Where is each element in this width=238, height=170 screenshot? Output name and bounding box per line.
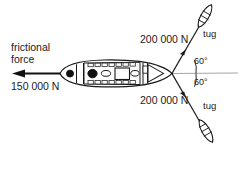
frictional-force-value: 150 000 N — [11, 80, 59, 92]
tug-label-upper: tug — [203, 29, 216, 40]
horizontal-reference-line — [172, 73, 238, 74]
frictional-force-label-line1: frictional — [11, 41, 50, 53]
frictional-force-label: frictionalforce — [11, 41, 50, 65]
force-diagram-canvas: frictionalforce 150 000 N 200 000 N 200 … — [0, 0, 238, 170]
tug-boat-upper — [194, 2, 215, 29]
tug-label-lower: tug — [203, 101, 216, 112]
angle-label-lower: 60° — [194, 77, 208, 87]
tug-force-value-lower: 200 000 N — [140, 94, 188, 106]
tug-force-value-upper: 200 000 N — [140, 33, 188, 45]
frictional-force-label-line2: force — [11, 53, 34, 65]
tug-boat-lower — [195, 117, 216, 144]
frictional-force-arrow — [12, 69, 60, 77]
angle-label-upper: 60° — [194, 56, 208, 66]
